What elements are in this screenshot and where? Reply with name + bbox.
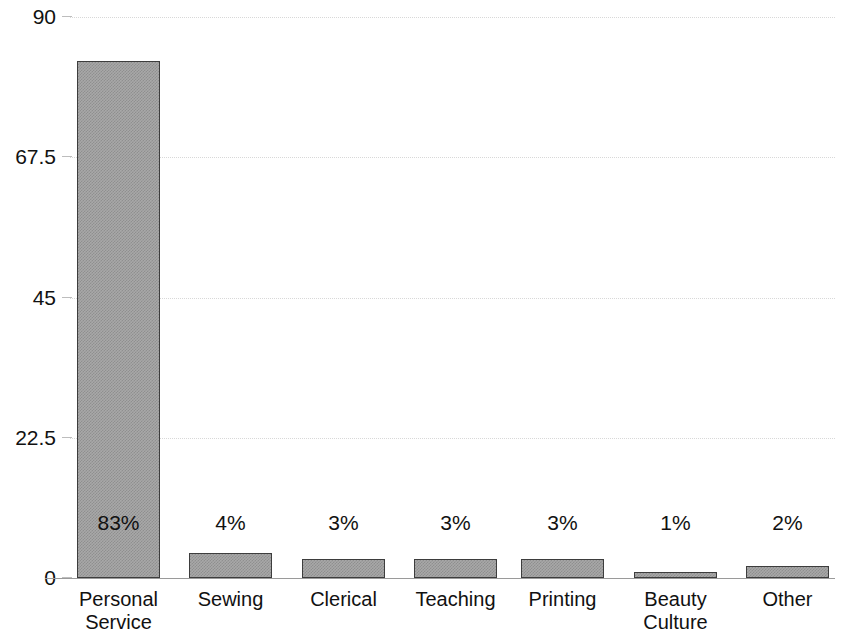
x-axis-category-label: Other <box>724 588 841 611</box>
bar <box>77 61 160 578</box>
bar <box>746 566 829 578</box>
bar-value-label: 4% <box>169 512 292 533</box>
x-axis-category-label: PersonalService <box>55 588 182 634</box>
x-axis-category-label-line: Printing <box>499 588 626 611</box>
bar <box>521 559 604 578</box>
y-axis-tick-mark <box>62 437 72 438</box>
x-axis-category-label-line: Culture <box>612 611 739 634</box>
bar <box>302 559 385 578</box>
bar-value-label: 83% <box>57 512 180 533</box>
y-axis-tick-label: 90 <box>0 6 56 27</box>
x-axis-category-label-line: Other <box>724 588 841 611</box>
x-axis-category-label: Sewing <box>167 588 294 611</box>
x-axis-category-label-line: Service <box>55 611 182 634</box>
bar-value-label: 3% <box>282 512 405 533</box>
x-axis-category-label: Printing <box>499 588 626 611</box>
y-axis-tick-label: 45 <box>0 287 56 308</box>
x-axis-category-label-line: Clerical <box>280 588 407 611</box>
y-axis-tick-mark <box>62 297 72 298</box>
x-axis-category-label: BeautyCulture <box>612 588 739 634</box>
bar <box>189 553 272 578</box>
y-axis-tick-mark <box>62 16 72 17</box>
plot-area: 022.54567.590 83%4%3%3%3%1%2% PersonalSe… <box>0 0 841 635</box>
gridline <box>70 157 835 159</box>
gridline <box>70 17 835 19</box>
x-axis-category-label: Clerical <box>280 588 407 611</box>
bar-chart: 022.54567.590 83%4%3%3%3%1%2% PersonalSe… <box>0 0 841 635</box>
gridline <box>70 438 835 440</box>
x-axis-baseline <box>45 578 835 579</box>
y-axis-tick-label: 67.5 <box>0 146 56 167</box>
bar <box>634 572 717 578</box>
bar-value-label: 2% <box>726 512 841 533</box>
y-axis-tick-mark <box>62 156 72 157</box>
bar-value-label: 1% <box>614 512 737 533</box>
y-axis-tick-label: 22.5 <box>0 427 56 448</box>
x-axis-category-label-line: Sewing <box>167 588 294 611</box>
bar-value-label: 3% <box>394 512 517 533</box>
x-axis-category-label-line: Beauty <box>612 588 739 611</box>
x-axis-category-label-line: Personal <box>55 588 182 611</box>
gridline <box>70 298 835 300</box>
bar-value-label: 3% <box>501 512 624 533</box>
bar <box>414 559 497 578</box>
